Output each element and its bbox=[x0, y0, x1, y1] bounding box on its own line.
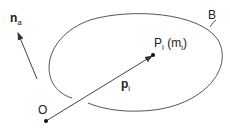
diagram-canvas bbox=[0, 0, 230, 131]
na-vector-arrow bbox=[18, 33, 37, 79]
origin-point bbox=[44, 119, 48, 123]
position-vector-label: pi bbox=[121, 78, 130, 90]
position-label-sub: i bbox=[128, 84, 130, 93]
na-label: na bbox=[10, 12, 22, 24]
body-label: B bbox=[208, 9, 216, 21]
mass-label-sub: i bbox=[181, 43, 183, 52]
particle-label-main: P bbox=[154, 36, 162, 50]
particle-label-sub: i bbox=[162, 43, 164, 52]
particle-label: Pi (mi) bbox=[154, 37, 187, 49]
mass-label-close: ) bbox=[183, 36, 187, 50]
origin-label: O bbox=[38, 104, 47, 116]
body-outline bbox=[49, 14, 222, 112]
particle-point bbox=[151, 53, 155, 57]
mass-label-open: (m bbox=[164, 36, 181, 50]
na-label-sub: a bbox=[17, 18, 21, 27]
